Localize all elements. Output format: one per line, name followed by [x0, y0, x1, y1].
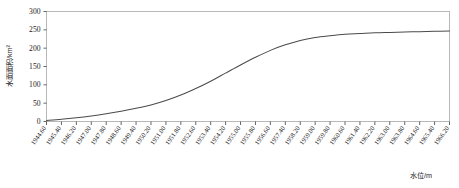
water-level-area-chart: 050100150200250300 1944.601945.401946.20… [0, 0, 459, 188]
y-axis-tick-label: 150 [29, 62, 41, 71]
y-axis-title: 水面面积/km² [5, 44, 14, 87]
data-series-line [47, 31, 450, 120]
y-axis-tick-label: 300 [29, 7, 41, 16]
chart-canvas: 050100150200250300 1944.601945.401946.20… [0, 0, 459, 188]
y-axis-tick-label: 100 [29, 80, 41, 89]
y-axis-tick-label: 50 [33, 99, 41, 108]
x-axis: 1944.601945.401946.201947.001947.801948.… [29, 122, 450, 147]
y-axis-tick-label: 250 [29, 25, 41, 34]
plot-frame [47, 12, 450, 122]
x-axis-title: 水位/m [410, 171, 432, 180]
y-axis-tick-label: 0 [37, 117, 41, 126]
y-axis-tick-label: 200 [29, 44, 41, 53]
y-axis: 050100150200250300 [29, 7, 46, 126]
x-axis-tick-label: 1966.20 [432, 124, 450, 146]
